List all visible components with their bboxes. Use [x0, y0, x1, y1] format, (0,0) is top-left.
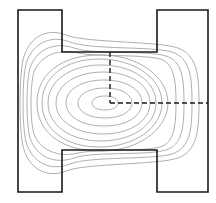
- contour-figure: [0, 0, 216, 203]
- contour-plot-svg: [0, 0, 216, 203]
